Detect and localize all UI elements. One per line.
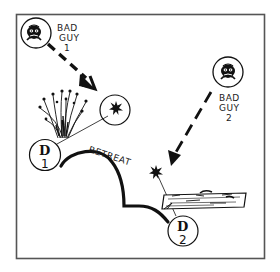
- defender-2-number: 2: [179, 233, 187, 247]
- bad-guy-2-marker: BAD GUY 2: [213, 57, 243, 123]
- bad-guy-1-label-line1: BAD: [57, 23, 78, 33]
- bad-guy-1-label-line3: 1: [64, 43, 70, 53]
- retreat-label: RETREAT: [87, 144, 132, 167]
- fallen-log-cover: [162, 191, 246, 209]
- tactical-diagram: BAD GUY 1: [0, 0, 280, 272]
- tall-grass-cover: [38, 89, 87, 138]
- arrowhead-icon: [168, 150, 181, 166]
- bad-guy-2-label-line1: BAD: [219, 93, 240, 103]
- bad-guy-1-label-line2: GUY: [59, 33, 80, 43]
- defender-2-marker: D 2: [168, 216, 198, 247]
- bad-guy-1-fire-arrow: [48, 44, 95, 89]
- impact-star-1-marker: [100, 95, 130, 125]
- defender-1-letter: D: [39, 143, 50, 158]
- defender-1-number: 1: [41, 157, 49, 171]
- defender-2-letter: D: [177, 219, 188, 234]
- bad-guy-2-label-line3: 2: [226, 113, 232, 123]
- defender-1-marker: D 1: [30, 140, 61, 172]
- splat-star-icon: [149, 165, 163, 179]
- bad-guy-2-label-line2: GUY: [219, 103, 240, 113]
- bad-guy-2-fire-arrow: [168, 92, 211, 166]
